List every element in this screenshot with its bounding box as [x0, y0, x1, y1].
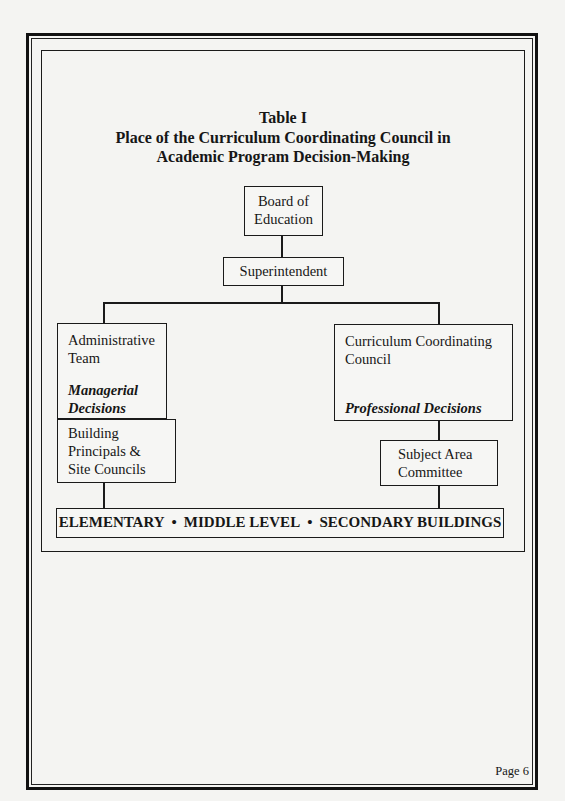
bullet-separator: •	[172, 514, 177, 530]
board-of-education-box: Board of Education	[244, 186, 323, 236]
professional-decisions-label: Professional Decisions	[345, 399, 512, 417]
connector-principals-buildings	[103, 483, 105, 508]
school-buildings-box: ELEMENTARY•MIDDLE LEVEL•SECONDARY BUILDI…	[56, 508, 504, 538]
connector-board-superintendent	[281, 236, 283, 257]
table-number: Table I	[41, 108, 525, 128]
elementary-label: ELEMENTARY	[59, 514, 165, 530]
admin-team-label-line1: Administrative	[68, 331, 166, 349]
middle-level-label: MIDDLE LEVEL	[184, 514, 300, 530]
secondary-buildings-label: SECONDARY BUILDINGS	[319, 514, 501, 530]
principals-label-line1: Building	[68, 424, 175, 442]
administrative-team-box: Administrative Team Managerial Decisions	[57, 323, 167, 419]
superintendent-box: Superintendent	[223, 257, 344, 286]
subject-area-label-line1: Subject Area	[398, 445, 497, 463]
subject-area-label-line2: Committee	[398, 463, 497, 481]
managerial-decisions-line2: Decisions	[68, 399, 166, 417]
bullet-separator: •	[307, 514, 312, 530]
subject-area-committee-box: Subject Area Committee	[380, 440, 498, 486]
branch-horizontal-line	[103, 302, 439, 304]
ccc-label-line1: Curriculum Coordinating	[345, 332, 512, 350]
superintendent-label: Superintendent	[240, 263, 328, 279]
connector-superintendent-branch	[281, 286, 283, 303]
page-header-mark	[468, 0, 538, 6]
admin-team-label-line2: Team	[68, 349, 166, 367]
page-number: Page 6	[495, 764, 529, 779]
connector-ccc-subject	[438, 421, 440, 441]
connector-branch-right	[438, 302, 440, 325]
board-label-line1: Board of	[245, 192, 322, 210]
board-label-line2: Education	[245, 210, 322, 228]
managerial-decisions-line1: Managerial	[68, 381, 166, 399]
principals-label-line2: Principals &	[68, 442, 175, 460]
ccc-label-line2: Council	[345, 350, 512, 368]
principals-label-line3: Site Councils	[68, 460, 175, 478]
table-title-line1: Place of the Curriculum Coordinating Cou…	[41, 128, 525, 148]
connector-branch-left	[103, 302, 105, 324]
curriculum-coordinating-council-box: Curriculum Coordinating Council Professi…	[334, 324, 513, 421]
building-principals-box: Building Principals & Site Councils	[57, 419, 176, 483]
table-title-line2: Academic Program Decision-Making	[41, 147, 525, 167]
connector-subject-buildings	[438, 486, 440, 508]
